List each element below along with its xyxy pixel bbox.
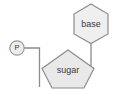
- nucleotide-svg-canvas: sugar base P: [0, 0, 122, 90]
- phosphate-circle-shape[interactable]: [10, 41, 24, 55]
- sugar-node[interactable]: sugar: [42, 50, 94, 88]
- phosphate-node[interactable]: P: [10, 41, 24, 55]
- phosphate-connector-line: [24, 48, 40, 87]
- phosphate-to-sugar-connector: [24, 48, 40, 87]
- base-node[interactable]: base: [74, 4, 108, 44]
- base-hexagon-shape[interactable]: [74, 4, 108, 44]
- sugar-pentagon-shape[interactable]: [42, 50, 94, 88]
- nucleotide-diagram: sugar base P: [0, 0, 122, 90]
